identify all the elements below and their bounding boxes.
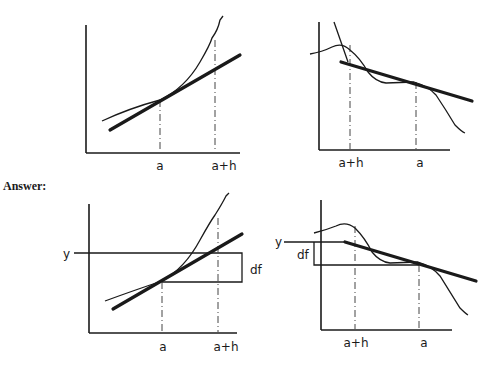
y-label: y [63,247,70,261]
tangent-line [345,242,476,281]
y-label: y [275,235,282,249]
panel-bottom-right: y df a+h a [275,200,476,350]
df-box [314,242,419,265]
panel-top-left: a a+h [86,16,240,173]
function-curve [310,45,465,133]
x-label-a: a [159,340,166,354]
x-label-a-plus-h: a+h [338,156,363,170]
tangent-line [113,234,242,309]
derivative-diagrams: a a+h a+h a Answer: y df a a+h [0,0,488,374]
x-label-a-plus-h: a+h [213,340,238,354]
panel-top-right: a+h a [310,22,472,170]
y-level-line [74,253,242,282]
secant-steep-line [334,22,348,62]
tangent-line [110,55,240,130]
df-label: df [297,248,310,262]
x-label-a-plus-h: a+h [343,336,368,350]
function-curve [102,16,223,121]
tangent-line [341,62,472,101]
answer-heading: Answer: [3,179,46,193]
function-curve [314,224,468,315]
x-label-a: a [420,336,427,350]
function-curve [105,193,229,301]
panel-bottom-left: y df a a+h [63,193,263,354]
x-label-a: a [156,159,163,173]
x-label-a: a [416,156,423,170]
x-label-a-plus-h: a+h [211,159,236,173]
df-label: df [250,263,263,277]
